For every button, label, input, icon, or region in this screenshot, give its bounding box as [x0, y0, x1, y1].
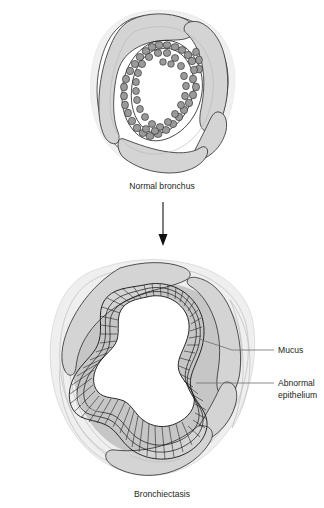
progression-arrow [159, 202, 168, 246]
figure-canvas: Normal bronchus [0, 0, 324, 508]
panel-normal-bronchus: Normal bronchus [90, 10, 235, 191]
arrow-head [159, 234, 168, 246]
panel-bronchiectasis: Bronchiectasis [50, 260, 255, 499]
caption-normal-bronchus: Normal bronchus [129, 181, 194, 191]
caption-bronchiectasis: Bronchiectasis [134, 489, 190, 499]
abnormal-epithelium-label-line1: Abnormal [278, 378, 315, 388]
bronchiectasis-figure: Normal bronchus [0, 0, 324, 508]
mucus-label: Mucus [278, 345, 303, 355]
abnormal-epithelium-label-line2: epithelium [278, 390, 317, 400]
